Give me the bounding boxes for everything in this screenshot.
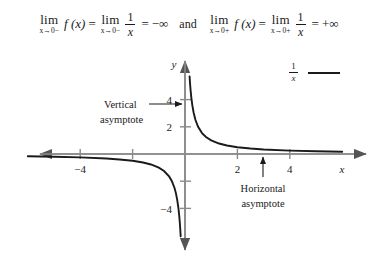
y-axis-label: y	[171, 58, 177, 70]
fraction-one-over-x: 1 x	[296, 11, 306, 38]
function-notation: f (x)	[64, 16, 85, 32]
lim-word: lim	[101, 13, 119, 26]
equals-sign: =	[141, 16, 148, 32]
fraction-numerator: 1	[125, 11, 135, 23]
fraction-denominator: x	[296, 26, 305, 38]
horizontal-asymptote-label-line2: asymptote	[241, 198, 284, 209]
limit-operator-left-1: lim x→0−	[39, 13, 59, 35]
vertical-asymptote-label-line2: asymptote	[100, 114, 143, 125]
figure-container: lim x→0− f (x) = lim x→0− 1 x = −∞ and l…	[0, 0, 376, 270]
function-notation: f (x)	[234, 16, 255, 32]
limit-expression-left: lim x→0− f (x) = lim x→0− 1 x = −∞	[37, 11, 168, 38]
lim-word: lim	[210, 13, 228, 26]
limit-result: +∞	[322, 16, 339, 32]
conjunction-and: and	[179, 17, 196, 32]
y-tick-label-2: 2	[167, 121, 173, 133]
fraction-one-over-x: 1 x	[125, 11, 135, 38]
limit-expression-right: lim x→0+ f (x) = lim x→0+ 1 x = +∞	[208, 11, 339, 38]
lim-subscript: x→0−	[101, 27, 121, 35]
graph-area: −4 2 4 4 2 −4 x y Vertical asymptote Hor…	[0, 46, 376, 270]
horizontal-asymptote-label-line1: Horizontal	[241, 183, 286, 194]
lim-subscript: x→0+	[210, 27, 230, 35]
lim-word: lim	[40, 13, 58, 26]
lim-subscript: x→0+	[271, 27, 291, 35]
x-tick-label-2: 2	[235, 163, 241, 175]
curve-left-branch	[28, 156, 181, 236]
x-axis-label: x	[339, 163, 345, 175]
function-plot: −4 2 4 4 2 −4 x y Vertical asymptote Hor…	[0, 46, 376, 270]
limit-operator-left-2: lim x→0−	[101, 13, 121, 35]
equals-sign: =	[312, 16, 319, 32]
limit-result: −∞	[152, 16, 169, 32]
x-tick-label--4: −4	[74, 163, 86, 175]
limit-equation: lim x→0− f (x) = lim x→0− 1 x = −∞ and l…	[0, 4, 376, 44]
equals-sign: =	[88, 16, 95, 32]
lim-subscript: x→0−	[39, 27, 59, 35]
fraction-denominator: x	[126, 26, 135, 38]
curve-right-branch	[190, 76, 343, 151]
limit-operator-right-2: lim x→0+	[271, 13, 291, 35]
vertical-asymptote-label-line1: Vertical	[104, 99, 137, 110]
lim-word: lim	[272, 13, 290, 26]
fraction-numerator: 1	[296, 11, 306, 23]
x-tick-label-4: 4	[287, 163, 293, 175]
limit-operator-right-1: lim x→0+	[210, 13, 230, 35]
y-tick-label--4: −4	[160, 203, 172, 215]
equals-sign: =	[259, 16, 266, 32]
